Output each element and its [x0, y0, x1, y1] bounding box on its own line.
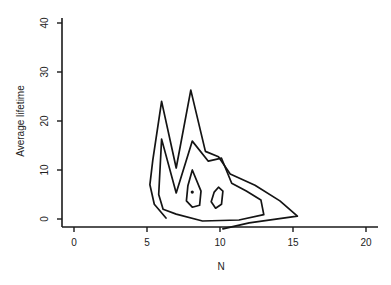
- contour-lines: [150, 90, 298, 229]
- x-axis-title: N: [217, 261, 224, 272]
- x-tick-label: 0: [71, 237, 77, 248]
- y-axis-title: Average lifetime: [15, 85, 26, 157]
- y-axis: 010203040: [39, 17, 62, 227]
- contour-middle: [159, 139, 264, 221]
- y-tick-label: 0: [39, 216, 50, 222]
- y-tick-label: 30: [39, 66, 50, 78]
- contour-outer: [150, 90, 298, 229]
- y-tick-label: 20: [39, 115, 50, 127]
- y-tick-label: 10: [39, 164, 50, 176]
- y-tick-label: 40: [39, 17, 50, 29]
- x-axis: 05101520: [62, 227, 378, 248]
- x-tick-label: 5: [144, 237, 150, 248]
- x-tick-label: 10: [214, 237, 226, 248]
- contour-inner-right: [211, 187, 223, 208]
- contour-chart: 010203040 05101520 N Average lifetime: [0, 0, 391, 285]
- x-tick-label: 20: [360, 237, 372, 248]
- peak-marker: [191, 190, 194, 193]
- contour-inner-left: [186, 170, 201, 207]
- x-tick-label: 15: [287, 237, 299, 248]
